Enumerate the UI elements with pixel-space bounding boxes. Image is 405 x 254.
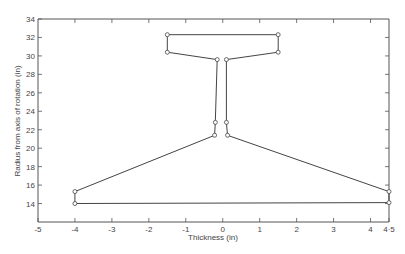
vertex-marker — [387, 201, 391, 205]
y-tick-label: 34 — [26, 15, 35, 24]
x-tick-label: -5 — [34, 225, 42, 234]
x-tick-label: -4 — [71, 225, 79, 234]
cross-section-outline — [73, 33, 391, 206]
y-tick-label: 24 — [26, 107, 35, 116]
vertex-marker — [276, 50, 280, 54]
vertex-marker — [215, 58, 219, 62]
x-axis-label: Thickness (in) — [188, 233, 238, 242]
vertex-marker — [387, 190, 391, 194]
x-tick-label: 4 — [368, 225, 373, 234]
y-tick-label: 18 — [26, 163, 35, 172]
y-tick-label: 20 — [26, 144, 35, 153]
y-tick-label: 16 — [26, 181, 35, 190]
vertex-marker — [165, 33, 169, 37]
y-axis-label: Radius from axis of rotation (in) — [13, 65, 22, 176]
vertex-marker — [213, 133, 217, 137]
axes: -5-4-3-2-1012344·51416182022242628303234 — [26, 15, 395, 234]
x-tick-label: 4·5 — [383, 225, 395, 234]
y-tick-label: 26 — [26, 89, 35, 98]
vertex-marker — [165, 50, 169, 54]
chart: -5-4-3-2-1012344·51416182022242628303234… — [0, 0, 405, 254]
y-tick-label: 30 — [26, 52, 35, 61]
x-tick-label: -2 — [145, 225, 153, 234]
y-tick-label: 22 — [26, 126, 35, 135]
x-tick-label: 2 — [294, 225, 299, 234]
vertex-marker — [73, 202, 77, 206]
outline-path — [75, 35, 389, 204]
x-tick-label: 3 — [331, 225, 336, 234]
x-tick-label: -3 — [108, 225, 116, 234]
x-tick-label: 1 — [257, 225, 262, 234]
vertex-marker — [224, 120, 228, 124]
vertex-marker — [73, 190, 77, 194]
vertex-marker — [224, 58, 228, 62]
y-tick-label: 14 — [26, 200, 35, 209]
y-tick-label: 32 — [26, 33, 35, 42]
vertex-marker — [226, 133, 230, 137]
vertex-marker — [276, 33, 280, 37]
y-tick-label: 28 — [26, 70, 35, 79]
vertex-marker — [213, 120, 217, 124]
